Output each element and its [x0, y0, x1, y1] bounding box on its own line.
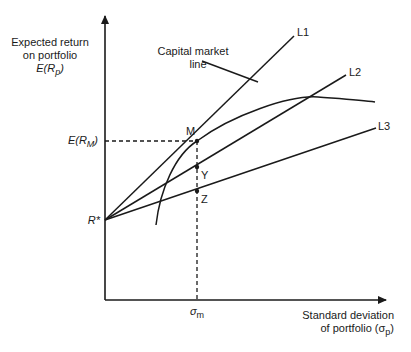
point-m	[195, 139, 199, 143]
cml-annotation-line-1: Capital market	[148, 45, 238, 58]
label-y: Y	[201, 169, 208, 182]
x-axis-label-line-1: Standard deviation	[280, 309, 394, 322]
x-axis-label-line-2: of portfolio (σp)	[280, 322, 394, 335]
cml-annotation: Capital market line	[148, 45, 238, 71]
y-axis-label-line-1: Expected return	[0, 36, 100, 49]
sigma-m-sub: m	[197, 310, 205, 320]
rstar-tick-label: R*	[60, 214, 100, 227]
label-l1: L1	[297, 26, 309, 39]
cml-annotation-line-2: line	[148, 58, 238, 71]
label-l2: L2	[349, 66, 361, 79]
label-l3: L3	[378, 120, 390, 133]
x-axis-label-end: )	[390, 322, 394, 334]
y-axis-label-line-2: on portfolio	[0, 49, 100, 62]
y-axis-label-line-3: E(Rp)	[0, 62, 100, 75]
efficient-frontier-curve	[156, 97, 375, 225]
x-axis-label-main: of portfolio (σ	[320, 322, 385, 334]
erm-end: )	[94, 134, 98, 146]
line-l3	[105, 128, 376, 220]
sigma-m-main: σ	[190, 305, 197, 317]
label-m: M	[186, 125, 195, 138]
label-z: Z	[201, 193, 208, 206]
y-axis-label: Expected return on portfolio E(Rp)	[0, 36, 100, 75]
x-axis-label: Standard deviation of portfolio (σp)	[280, 309, 394, 335]
y-axis-label-end: )	[60, 62, 64, 74]
erm-tick-label: E(RM)	[40, 134, 98, 147]
erm-main: E(R	[68, 134, 87, 146]
point-z	[195, 189, 199, 193]
sigma-m-tick-label: σm	[182, 305, 212, 318]
line-l2	[105, 75, 346, 220]
y-axis-label-main: E(R	[36, 62, 55, 74]
point-y	[195, 165, 199, 169]
